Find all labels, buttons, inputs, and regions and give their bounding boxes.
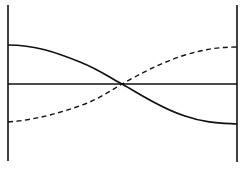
- diagram-canvas: [0, 0, 243, 170]
